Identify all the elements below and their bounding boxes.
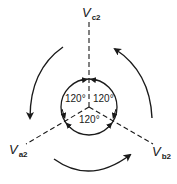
angle-arrow-bottom-left <box>67 124 72 129</box>
angle-label-bottom: 120° <box>79 115 100 125</box>
angle-arrow-bottom-right <box>106 124 111 129</box>
rotation-arrow-left <box>30 47 63 118</box>
label-vc2: Vc2 <box>82 6 101 22</box>
angle-label-left: 120° <box>65 94 86 104</box>
phasor-line-vb2 <box>89 107 153 144</box>
phasor-line-va2 <box>26 107 89 144</box>
label-va2: Va2 <box>9 143 28 159</box>
angle-label-right: 120° <box>93 94 114 104</box>
rotation-arrow-bottom <box>54 155 130 171</box>
label-vb2: Vb2 <box>152 145 171 161</box>
rotation-arrow-right <box>115 49 152 118</box>
